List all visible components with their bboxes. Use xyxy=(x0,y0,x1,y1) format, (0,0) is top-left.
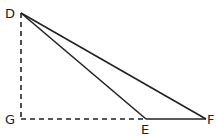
point-label-e: E xyxy=(141,122,149,136)
triangle-diagram: D G E F xyxy=(0,0,216,136)
point-label-f: F xyxy=(207,112,214,127)
point-label-d: D xyxy=(5,6,15,21)
segment-df xyxy=(21,13,206,119)
point-label-g: G xyxy=(5,112,15,127)
segment-de xyxy=(21,13,146,119)
